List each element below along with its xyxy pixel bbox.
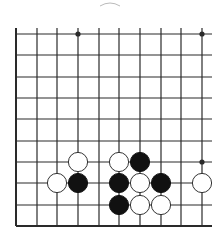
star-point-icon [199,159,204,164]
white-stone[interactable] [47,173,66,192]
star-point-icon [75,31,80,36]
go-board[interactable] [0,0,224,238]
black-stone[interactable] [109,173,128,192]
white-stone[interactable] [130,195,149,214]
white-stone[interactable] [68,152,87,171]
white-stone[interactable] [151,195,170,214]
black-stone[interactable] [109,195,128,214]
white-stone[interactable] [192,173,211,192]
white-stone[interactable] [130,173,149,192]
white-stone[interactable] [109,152,128,171]
black-stone[interactable] [130,152,149,171]
black-stone[interactable] [68,173,87,192]
cropped-stone-arc [100,3,120,6]
star-point-icon [199,31,204,36]
black-stone[interactable] [151,173,170,192]
